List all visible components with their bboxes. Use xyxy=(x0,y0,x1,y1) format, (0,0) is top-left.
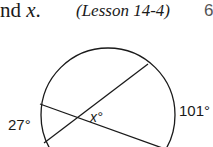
angle-label-x: x° xyxy=(89,109,103,125)
chord-1 xyxy=(44,64,148,143)
arc-label-left: 27° xyxy=(8,116,31,133)
circle xyxy=(41,48,175,147)
arc-label-right: 101° xyxy=(179,102,210,119)
circle-figure: 27° 101° x° xyxy=(0,0,213,147)
chord-2 xyxy=(40,104,168,147)
